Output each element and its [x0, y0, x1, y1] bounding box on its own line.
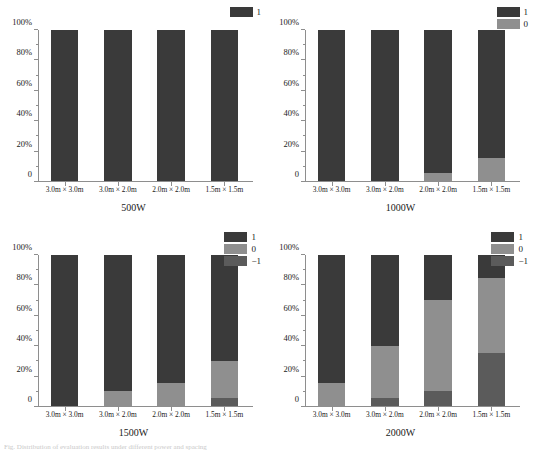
legend-label: 1 [524, 7, 529, 17]
stacked-bar[interactable] [478, 255, 506, 406]
stacked-bar[interactable] [318, 255, 346, 406]
bar-segment [424, 391, 452, 406]
legend-item[interactable]: −1 [491, 255, 528, 266]
legend-item[interactable]: 1 [224, 231, 261, 242]
stacked-bar[interactable] [211, 30, 239, 181]
y-axis-line [305, 30, 306, 182]
y-axis-tick [301, 254, 305, 255]
chart-panel-1500w: 10−1020%40%60%80%100%3.0m × 3.0m3.0m × 2… [0, 225, 267, 450]
stacked-bar[interactable] [318, 30, 346, 181]
legend-item[interactable]: 1 [491, 231, 528, 242]
y-axis-tick-label: 0 [28, 395, 32, 403]
chart-title: 2000W [267, 427, 534, 438]
x-axis-label: 3.0m × 3.0m [46, 410, 84, 419]
x-axis-label: 3.0m × 3.0m [313, 185, 351, 194]
y-axis-tick [301, 90, 305, 91]
y-axis-tick-label: 80% [16, 48, 32, 56]
y-axis-tick [34, 29, 38, 30]
legend-swatch-icon [224, 256, 247, 266]
x-axis-labels: 3.0m × 3.0m3.0m × 2.0m2.0m × 2.0m1.5m × … [38, 185, 251, 197]
legend-label: 1 [257, 7, 262, 17]
y-axis-tick-label: 80% [283, 273, 299, 281]
chart-legend: 10−1 [224, 231, 261, 266]
bar-segment [371, 398, 399, 406]
legend-item[interactable]: −1 [224, 255, 261, 266]
x-axis-labels: 3.0m × 3.0m3.0m × 2.0m2.0m × 2.0m1.5m × … [305, 185, 518, 197]
stacked-bar[interactable] [371, 255, 399, 406]
y-axis-tick-label: 0 [295, 395, 299, 403]
x-axis-label: 2.0m × 2.0m [152, 185, 190, 194]
y-axis-tick-label: 100% [12, 243, 32, 251]
plot-area: 020%40%60%80%100% [305, 30, 518, 182]
legend-item[interactable]: 0 [224, 243, 261, 254]
y-axis-line [38, 255, 39, 407]
bar-segment [318, 383, 346, 406]
chart-legend: 1 [230, 6, 262, 17]
y-axis-tick-label: 20% [16, 140, 32, 148]
y-axis-minor-tick [36, 391, 38, 392]
y-axis-tick-label: 80% [16, 273, 32, 281]
y-axis-minor-tick [303, 105, 305, 106]
legend-label: 1 [251, 232, 256, 242]
y-axis-tick-label: 0 [28, 170, 32, 178]
legend-swatch-icon [491, 256, 514, 266]
x-axis-label: 2.0m × 2.0m [419, 185, 457, 194]
bar-segment [318, 255, 346, 383]
stacked-bar[interactable] [51, 30, 79, 181]
y-axis-tick [34, 284, 38, 285]
y-axis-tick [34, 90, 38, 91]
legend-item[interactable]: 0 [491, 243, 528, 254]
bar-segment [211, 30, 239, 181]
figure-caption: Fig. Distribution of evaluation results … [4, 443, 530, 450]
bar-segment [371, 346, 399, 399]
stacked-bar[interactable] [424, 30, 452, 181]
stacked-bar[interactable] [104, 255, 132, 406]
y-axis-tick [301, 59, 305, 60]
bar-segment [424, 173, 452, 181]
legend-label: 0 [518, 244, 523, 254]
legend-label: 0 [524, 19, 529, 29]
y-axis-minor-tick [36, 44, 38, 45]
stacked-bar[interactable] [424, 255, 452, 406]
legend-label: −1 [518, 256, 528, 266]
stacked-bar[interactable] [104, 30, 132, 181]
y-axis-tick-label: 60% [283, 79, 299, 87]
legend-item[interactable]: 1 [230, 6, 262, 17]
stacked-bar[interactable] [211, 255, 239, 406]
chart-panel-2000w: 10−1020%40%60%80%100%3.0m × 3.0m3.0m × 2… [267, 225, 534, 450]
stacked-bar[interactable] [371, 30, 399, 181]
bar-segment [157, 383, 185, 406]
stacked-bar[interactable] [157, 255, 185, 406]
bar-segment [424, 30, 452, 173]
y-axis-tick [34, 376, 38, 377]
bar-segment [104, 30, 132, 181]
y-axis-tick [34, 120, 38, 121]
chart-title: 1500W [0, 427, 267, 438]
y-axis-minor-tick [303, 135, 305, 136]
legend-item[interactable]: 0 [497, 18, 529, 29]
y-axis-tick-label: 40% [283, 334, 299, 342]
legend-item[interactable]: 1 [497, 6, 529, 17]
legend-label: 0 [251, 244, 256, 254]
y-axis-tick [301, 181, 305, 182]
x-axis-line [38, 406, 253, 407]
bar-segment [157, 30, 185, 181]
chart-legend: 10−1 [491, 231, 528, 266]
y-axis-tick-label: 20% [283, 365, 299, 373]
x-axis-label: 3.0m × 2.0m [366, 410, 404, 419]
bar-segment [371, 255, 399, 346]
y-axis-tick-label: 0 [295, 170, 299, 178]
y-axis-tick [34, 345, 38, 346]
y-axis-tick-label: 100% [12, 18, 32, 26]
y-axis-minor-tick [303, 166, 305, 167]
x-axis-label: 2.0m × 2.0m [419, 410, 457, 419]
y-axis-minor-tick [36, 105, 38, 106]
y-axis-tick [34, 315, 38, 316]
y-axis-minor-tick [36, 330, 38, 331]
bar-segment [211, 255, 239, 361]
stacked-bar[interactable] [478, 30, 506, 181]
y-axis-tick-label: 20% [283, 140, 299, 148]
stacked-bar[interactable] [51, 255, 79, 406]
chart-panel-1000w: 10020%40%60%80%100%3.0m × 3.0m3.0m × 2.0… [267, 0, 534, 225]
stacked-bar[interactable] [157, 30, 185, 181]
